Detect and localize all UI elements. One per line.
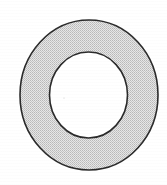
scan-speck — [63, 97, 64, 98]
annulus-group — [20, 20, 158, 170]
figure-canvas — [0, 0, 167, 185]
inner-circle — [50, 52, 128, 138]
annulus-diagram-svg — [0, 0, 167, 185]
